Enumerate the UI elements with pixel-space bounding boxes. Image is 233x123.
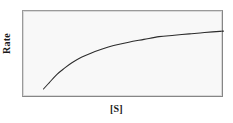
plot-frame — [22, 10, 223, 97]
x-axis-label: [S] — [0, 103, 233, 114]
saturation-curve-svg — [23, 11, 224, 98]
y-axis-label: Rate — [1, 20, 12, 68]
enzyme-kinetics-figure: Rate [S] — [0, 0, 233, 123]
rate-vs-substrate-curve — [43, 31, 223, 89]
